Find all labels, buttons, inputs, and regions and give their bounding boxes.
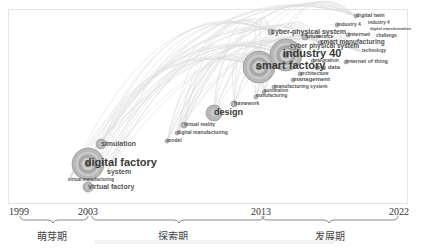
keyword-label: management: [293, 76, 330, 82]
keyword-label: technology: [362, 49, 386, 54]
keyword-label: framework: [234, 101, 259, 106]
keyword-label: automation: [264, 89, 288, 94]
keyword-label: integration: [313, 58, 339, 63]
keyword-label: digital factory: [85, 157, 157, 168]
year-tick-1999: 1999: [9, 206, 29, 217]
keyword-label: industry 4: [337, 22, 361, 27]
stage-braces: [20, 216, 398, 223]
keyword-label: challenge: [376, 34, 397, 39]
keyword-label: manufacturing system: [274, 84, 327, 89]
keyword-label: internet: [348, 31, 370, 37]
keyword-label: manufacturing: [256, 94, 287, 99]
keyword-label: virtual reality: [184, 122, 215, 127]
keyword-label: digital transformation: [370, 27, 411, 31]
keyword-label: virtual factory: [88, 183, 134, 190]
figure-caption-faint: [95, 240, 335, 244]
keyword-label: smart manufacturing: [320, 39, 385, 46]
year-tick-2013: 2013: [251, 206, 271, 217]
keyword-label: design: [214, 108, 243, 117]
keyword-label: model: [167, 138, 182, 143]
keyword-label: system: [107, 168, 131, 175]
stage-label-emergence: 萌芽期: [37, 228, 67, 243]
keyword-label: digital manufacturing: [177, 130, 228, 135]
keyword-label: internet of thing: [346, 59, 388, 65]
keyword-label: simulation: [101, 140, 136, 147]
year-tick-2022: 2022: [389, 206, 409, 217]
year-tick-2003: 2003: [78, 206, 98, 217]
keyword-label: architecture: [300, 71, 329, 76]
keyword-label: digital twin: [356, 13, 385, 19]
keyword-label: service: [316, 34, 333, 39]
